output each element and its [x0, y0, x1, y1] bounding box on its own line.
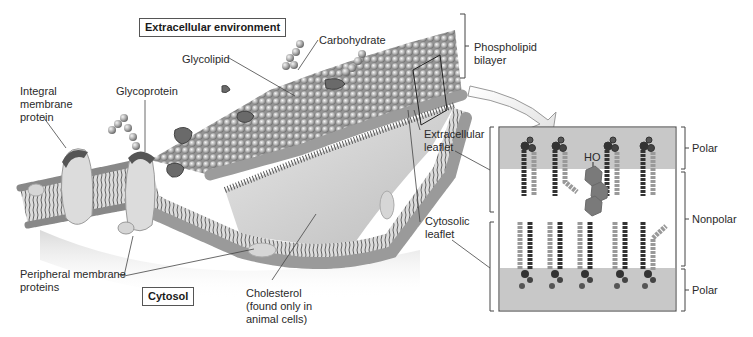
extracellular-environment-label: Extracellular environment	[139, 18, 286, 37]
polar-bottom-label: Polar	[692, 284, 718, 297]
glycoprotein-label: Glycoprotein	[116, 85, 178, 98]
peripheral-protein-blob-2	[28, 184, 44, 196]
carbohydrate-label: Carbohydrate	[319, 34, 386, 47]
peripheral-protein-blob	[248, 243, 276, 257]
nonpolar-label: Nonpolar	[692, 213, 737, 226]
hydroxyl-group-label: HO	[584, 151, 601, 164]
peripheral-membrane-proteins-label: Peripheral membrane proteins	[20, 268, 126, 294]
phospholipid-bilayer-label: Phospholipid bilayer	[474, 41, 537, 67]
cholesterol-label: Cholesterol (found only in animal cells)	[246, 287, 312, 326]
glycolipid-label: Glycolipid	[182, 53, 230, 66]
integral-membrane-protein-label: Integral membrane protein	[20, 85, 73, 124]
polar-top-label: Polar	[692, 142, 718, 155]
integral-membrane-protein	[61, 149, 92, 225]
extracellular-leaflet-label: Extracellular leaflet	[424, 128, 485, 154]
cytosolic-leaflet-label: Cytosolic leaflet	[425, 215, 470, 241]
bracket-phospholipid-bilayer	[460, 14, 469, 78]
cytosol-label: Cytosol	[142, 287, 194, 306]
